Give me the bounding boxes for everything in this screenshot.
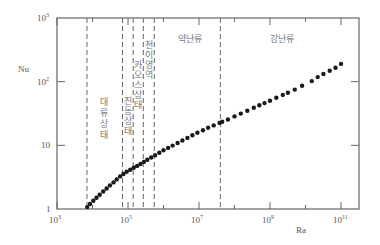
data-point (268, 99, 272, 103)
data-point (293, 87, 297, 91)
data-point (239, 111, 243, 115)
data-point (153, 153, 157, 157)
data-point (316, 75, 320, 79)
data-point (111, 180, 115, 184)
data-point (262, 101, 266, 105)
region-label-char: 진 (124, 96, 132, 106)
data-point (101, 189, 105, 193)
data-point (274, 96, 278, 100)
x-tick-label: 109 (262, 214, 274, 225)
region-label-char: 이 (145, 50, 153, 60)
data-point (257, 103, 261, 107)
data-point (104, 186, 108, 190)
region-label-char: 영 (145, 60, 153, 70)
data-point (175, 141, 179, 145)
region-label-char: 상 (100, 119, 108, 129)
data-point (206, 126, 210, 130)
region-label-char: 대 (100, 97, 108, 107)
data-point (190, 133, 194, 137)
region-label-char: 스 (134, 80, 142, 90)
data-point (98, 193, 102, 197)
nu-ra-chart: 1031051071091011110102103 대류상태진동상태카오스상태천… (0, 0, 380, 245)
data-point (149, 155, 153, 159)
region-label-char: 역 (145, 70, 153, 80)
region-label-char: 동 (124, 106, 132, 116)
region-label: 대류상태 (100, 97, 108, 140)
region-label-char: 천 (145, 40, 153, 50)
region-label: 천이영역 (145, 40, 153, 80)
x-tick-label: 1011 (333, 214, 348, 225)
data-point (180, 138, 184, 142)
y-tick-label: 1 (46, 204, 51, 214)
region-label-char: 카 (134, 60, 142, 70)
data-point (185, 136, 189, 140)
x-tick-label: 103 (49, 214, 61, 225)
x-axis-title: Ra (296, 225, 306, 235)
data-point (108, 183, 112, 187)
y-tick-label: 10 (41, 140, 51, 150)
region-label-char: 류 (100, 108, 108, 118)
data-point (232, 114, 236, 118)
data-point (201, 128, 205, 132)
data-point (94, 196, 98, 200)
region-label-horizontal: 약난류 (178, 33, 202, 44)
data-point (170, 143, 174, 147)
y-tick-label: 102 (37, 76, 49, 87)
region-label-char: 오 (134, 70, 142, 80)
y-axis-title: Nu (18, 64, 29, 74)
region-label-char: 태 (134, 100, 142, 110)
data-point (226, 117, 230, 121)
data-point (328, 69, 332, 73)
data-point (220, 120, 224, 124)
x-tick-label: 107 (191, 214, 203, 225)
data-point (300, 84, 304, 88)
region-label: 진동상태 (124, 96, 132, 136)
data-point (310, 79, 314, 83)
data-point (145, 158, 149, 162)
region-label-char: 상 (124, 116, 132, 126)
data-point (281, 93, 285, 97)
data-point (161, 148, 165, 152)
region-label-char: 태 (124, 126, 132, 136)
region-label-char: 태 (100, 130, 108, 140)
x-tick-label: 105 (120, 214, 132, 225)
region-label-horizontal: 강난류 (270, 34, 294, 44)
data-point (166, 146, 170, 150)
data-point (339, 62, 343, 66)
data-point (245, 109, 249, 113)
data-point (195, 131, 199, 135)
data-point (115, 177, 119, 181)
data-point (286, 91, 290, 95)
region-label: 카오스상태 (134, 60, 142, 110)
y-tick-label: 103 (37, 12, 49, 23)
data-point (333, 66, 337, 70)
region-label-char: 상 (134, 90, 142, 100)
data-point (88, 202, 92, 206)
data-point (157, 151, 161, 155)
data-point (212, 123, 216, 127)
data-point (321, 72, 325, 76)
data-point (252, 106, 256, 110)
region-labels: 대류상태진동상태카오스상태천이영역약난류강난류 (100, 33, 294, 140)
